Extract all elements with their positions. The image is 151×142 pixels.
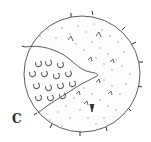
illustration-panel: C [0, 0, 151, 142]
grain-drawing [0, 0, 151, 142]
panel-label: C [12, 112, 22, 126]
